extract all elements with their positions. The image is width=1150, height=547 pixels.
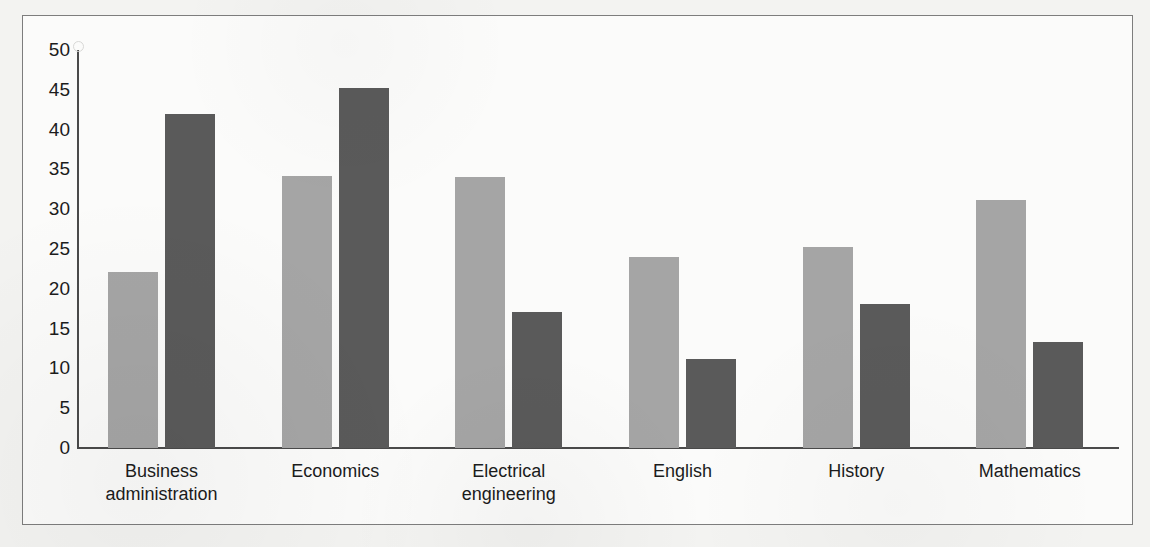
x-axis-category-label-line: administration [75, 483, 249, 506]
bar [165, 114, 215, 448]
x-axis-category-label: Electricalengineering [422, 460, 596, 506]
bar [686, 359, 736, 448]
x-axis-category-label-line: Mathematics [943, 460, 1117, 483]
y-axis-tick-label: 30 [30, 198, 70, 220]
y-axis-tick-label: 35 [30, 158, 70, 180]
bar [455, 177, 505, 448]
x-axis-category-label: History [769, 460, 943, 483]
y-axis-tick-label: 10 [30, 357, 70, 379]
bar [629, 257, 679, 448]
bar [976, 200, 1026, 448]
x-axis-category-label-line: engineering [422, 483, 596, 506]
y-axis-tick-label: 15 [30, 318, 70, 340]
x-axis-category-label: English [596, 460, 770, 483]
bar [108, 272, 158, 448]
x-axis-category-label-line: English [596, 460, 770, 483]
x-axis-category-label: Mathematics [943, 460, 1117, 483]
x-axis-category-label-line: History [769, 460, 943, 483]
bar [339, 88, 389, 448]
bar [1033, 342, 1083, 448]
y-axis-tick-label: 50 [30, 39, 70, 61]
y-axis-tick-label: 45 [30, 79, 70, 101]
y-axis-tick-label: 5 [30, 397, 70, 419]
bar [282, 176, 332, 448]
bar [512, 312, 562, 448]
y-axis-tick-label: 0 [30, 437, 70, 459]
x-axis-category-label: Economics [248, 460, 422, 483]
y-axis-tick-label: 40 [30, 119, 70, 141]
x-axis-category-label-line: Electrical [422, 460, 596, 483]
y-axis-tick-labels: 05101520253035404550 [20, 0, 70, 547]
y-axis-tick-label: 20 [30, 278, 70, 300]
bar [860, 304, 910, 448]
bar [803, 247, 853, 448]
plot-area [77, 50, 1119, 448]
y-axis-tick-label: 25 [30, 238, 70, 260]
x-axis-category-label: Businessadministration [75, 460, 249, 506]
chart-page: 05101520253035404550 Businessadministrat… [0, 0, 1150, 547]
x-axis-category-label-line: Business [75, 460, 249, 483]
x-axis-category-label-line: Economics [248, 460, 422, 483]
